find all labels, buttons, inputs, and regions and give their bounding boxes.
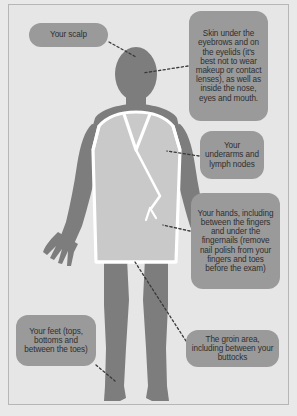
callout-underarms[interactable]: Your underarms and lymph nodes <box>200 131 264 179</box>
gown-shape <box>93 112 180 262</box>
callout-feet[interactable]: Your feet (tops, bottoms and between the… <box>16 315 96 366</box>
callout-hands[interactable]: Your hands, including between the finger… <box>191 193 280 289</box>
left-leg-shape <box>104 258 129 386</box>
right-foot-shape <box>146 386 169 401</box>
left-foot-shape <box>104 386 126 401</box>
callout-groin[interactable]: The groin area, including between your b… <box>186 330 279 367</box>
head-shape <box>115 47 157 101</box>
diagram-page: Your scalp Skin under the eyebrows and o… <box>0 0 297 416</box>
right-leg-shape <box>143 258 168 386</box>
callout-eyelids[interactable]: Skin under the eyebrows and on the eyeli… <box>189 11 268 121</box>
callout-scalp[interactable]: Your scalp <box>29 23 108 47</box>
